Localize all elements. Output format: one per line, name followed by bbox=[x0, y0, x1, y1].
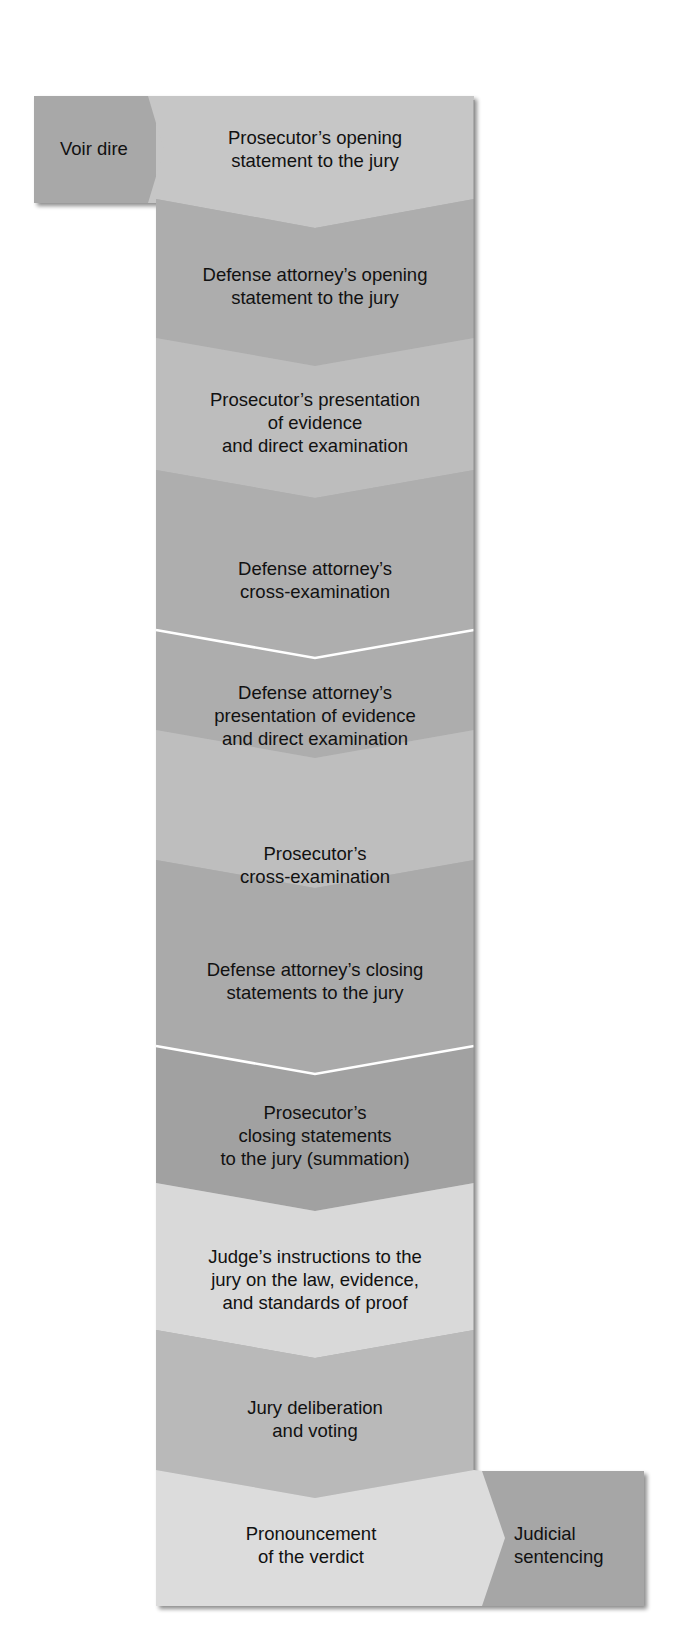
trial-process-diagram: Voir dire Prosecutor’s opening statement… bbox=[0, 0, 686, 1644]
diagram-shapes bbox=[0, 0, 686, 1644]
step-7-shape bbox=[156, 860, 474, 1074]
voir-dire-box bbox=[34, 96, 164, 203]
step-4-shape bbox=[156, 470, 474, 658]
